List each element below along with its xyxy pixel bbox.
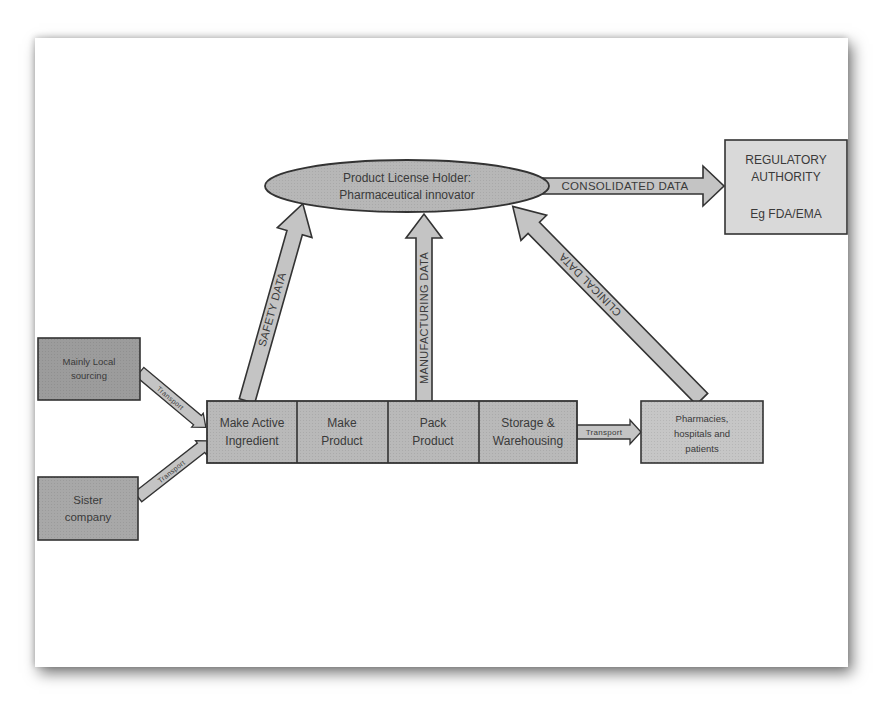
- step-4-line2: Warehousing: [493, 434, 563, 448]
- clinical-data-label: CLINICAL DATA: [556, 251, 624, 319]
- consolidated-data-arrow: CONSOLIDATED DATA: [540, 166, 724, 206]
- pharmacies-line2: hospitals and: [674, 428, 730, 439]
- regulatory-line1: REGULATORY: [745, 153, 826, 167]
- pharmacies-line3: patients: [685, 443, 719, 454]
- transport-pharmacies-label: Transport: [586, 428, 623, 437]
- step-3-line1: Pack: [420, 416, 448, 430]
- transport-pharmacies-arrow: Transport: [577, 420, 641, 444]
- clinical-data-arrow: CLINICAL DATA: [500, 194, 715, 412]
- step-2-line2: Product: [321, 434, 363, 448]
- supply-chain-diagram: SAFETY DATA MANUFACTURING DATA CLINICAL …: [0, 0, 888, 706]
- step-2-line1: Make: [327, 416, 357, 430]
- pharmacies-node: Pharmacies, hospitals and patients: [641, 401, 763, 463]
- license-holder-line1: Product License Holder:: [343, 171, 471, 185]
- transport-sister-arrow: Transport: [132, 434, 215, 504]
- manufacturing-data-arrow: MANUFACTURING DATA: [406, 214, 442, 401]
- transport-local-arrow: Transport: [134, 365, 211, 434]
- step-1-line1: Make Active: [220, 416, 285, 430]
- regulatory-authority-node: REGULATORY AUTHORITY Eg FDA/EMA: [725, 140, 847, 234]
- local-sourcing-line2: sourcing: [71, 370, 107, 381]
- sister-company-line2: company: [65, 511, 112, 523]
- local-sourcing-line1: Mainly Local: [63, 356, 116, 367]
- sister-company-node: Sister company: [38, 477, 138, 540]
- regulatory-line3: Eg FDA/EMA: [750, 207, 821, 221]
- step-1-line2: Ingredient: [225, 434, 279, 448]
- sister-company-line1: Sister: [73, 494, 103, 506]
- process-steps: Make Active Ingredient Make Product Pack…: [207, 401, 577, 463]
- consolidated-data-label: CONSOLIDATED DATA: [561, 180, 688, 192]
- step-4-line1: Storage &: [501, 416, 554, 430]
- license-holder-line2: Pharmaceutical innovator: [339, 188, 474, 202]
- pharmacies-line1: Pharmacies,: [676, 413, 729, 424]
- step-3-line2: Product: [412, 434, 454, 448]
- license-holder-node: Product License Holder: Pharmaceutical i…: [265, 160, 549, 212]
- regulatory-line2: AUTHORITY: [751, 170, 820, 184]
- manufacturing-data-label: MANUFACTURING DATA: [418, 252, 430, 384]
- local-sourcing-node: Mainly Local sourcing: [38, 338, 140, 400]
- safety-data-arrow: SAFETY DATA: [230, 199, 320, 406]
